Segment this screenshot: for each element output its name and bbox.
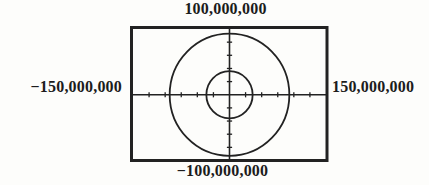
- xmin-label: −150,000,000: [6, 78, 122, 96]
- ymax-label: 100,000,000: [126, 0, 325, 18]
- xmax-label: 150,000,000: [332, 78, 429, 96]
- ymin-label: −100,000,000: [123, 162, 322, 180]
- calculator-graph-figure: 100,000,000 −100,000,000 −150,000,000 15…: [0, 0, 429, 185]
